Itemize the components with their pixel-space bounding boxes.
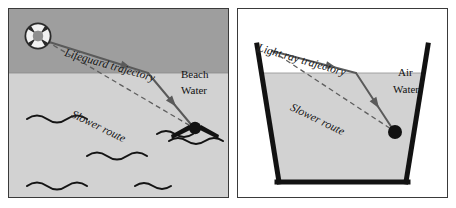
water-label-right: Water <box>393 84 419 95</box>
target-dot-icon <box>388 125 402 139</box>
right-panel-graphics <box>238 9 447 197</box>
right-panel-light-ray: Air Water Light ray trajectory Slower ro… <box>237 8 448 198</box>
left-panel-lifeguard: Beach Water Lifeguard trajectory Slower … <box>8 8 229 198</box>
air-label: Air <box>398 67 413 78</box>
beach-label: Beach <box>181 69 208 80</box>
life-preserver-icon <box>25 23 52 50</box>
water-label-left: Water <box>181 85 207 96</box>
refraction-analogy-figure: Beach Water Lifeguard trajectory Slower … <box>0 0 456 208</box>
air-region <box>238 9 447 73</box>
left-panel-graphics <box>9 9 228 197</box>
